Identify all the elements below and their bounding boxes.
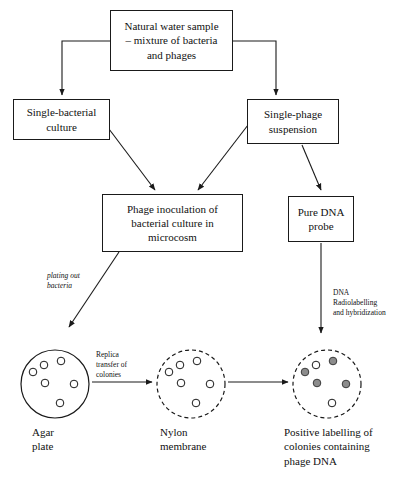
colony-positive bbox=[342, 380, 350, 388]
box-pure-dna-probe[interactable]: Pure DNA probe bbox=[288, 196, 354, 242]
label-dna-radiolabelling: DNA Radiolabelling and hybridization bbox=[333, 288, 405, 318]
colony-positive bbox=[313, 379, 321, 387]
caption-agar-plate: Agar plate bbox=[32, 425, 102, 454]
colony bbox=[176, 361, 184, 369]
plate-agar[interactable] bbox=[19, 348, 91, 424]
nylon-membrane-dish bbox=[155, 348, 227, 420]
box-single-bacterial-culture[interactable]: Single-bacterial culture bbox=[13, 99, 110, 140]
colony bbox=[328, 399, 336, 407]
colony bbox=[193, 357, 201, 365]
colony bbox=[57, 357, 65, 365]
colony-positive bbox=[301, 368, 309, 376]
edge-water-to-bacterial bbox=[62, 41, 110, 95]
colony bbox=[165, 368, 173, 376]
caption-nylon-membrane: Nylon membrane bbox=[160, 425, 250, 454]
positive-labelling-dish bbox=[291, 348, 363, 420]
edge-phage-to-probe bbox=[302, 145, 321, 190]
colony bbox=[41, 379, 49, 387]
agar-plate-dish bbox=[19, 348, 91, 420]
plate-positive-labelling[interactable] bbox=[291, 348, 363, 424]
box-phage-inoculation[interactable]: Phage inoculation of bacterial culture i… bbox=[102, 194, 243, 252]
edge-water-to-phage bbox=[233, 41, 276, 95]
edge-bacterial-to-inoculation bbox=[106, 125, 155, 190]
label-plating-out-bacteria: plating out bacteria bbox=[47, 271, 117, 291]
edge-phage-to-inoculation bbox=[198, 125, 248, 190]
box-natural-water-sample[interactable]: Natural water sample – mixture of bacter… bbox=[110, 10, 233, 71]
colony bbox=[312, 361, 320, 369]
colony bbox=[206, 380, 214, 388]
plate-nylon-membrane[interactable] bbox=[155, 348, 227, 424]
box-single-phage-suspension[interactable]: Single-phage suspension bbox=[247, 99, 339, 144]
colony bbox=[56, 399, 64, 407]
colony bbox=[192, 399, 200, 407]
flowchart-canvas: Natural water sample – mixture of bacter… bbox=[0, 0, 405, 477]
colony bbox=[70, 380, 78, 388]
colony-positive bbox=[329, 357, 337, 365]
label-replica-transfer: Replica transfer of colonies bbox=[96, 350, 152, 380]
colony bbox=[29, 368, 37, 376]
caption-positive-labelling: Positive labelling of colonies containin… bbox=[284, 425, 404, 468]
colony bbox=[177, 379, 185, 387]
colony bbox=[40, 361, 48, 369]
